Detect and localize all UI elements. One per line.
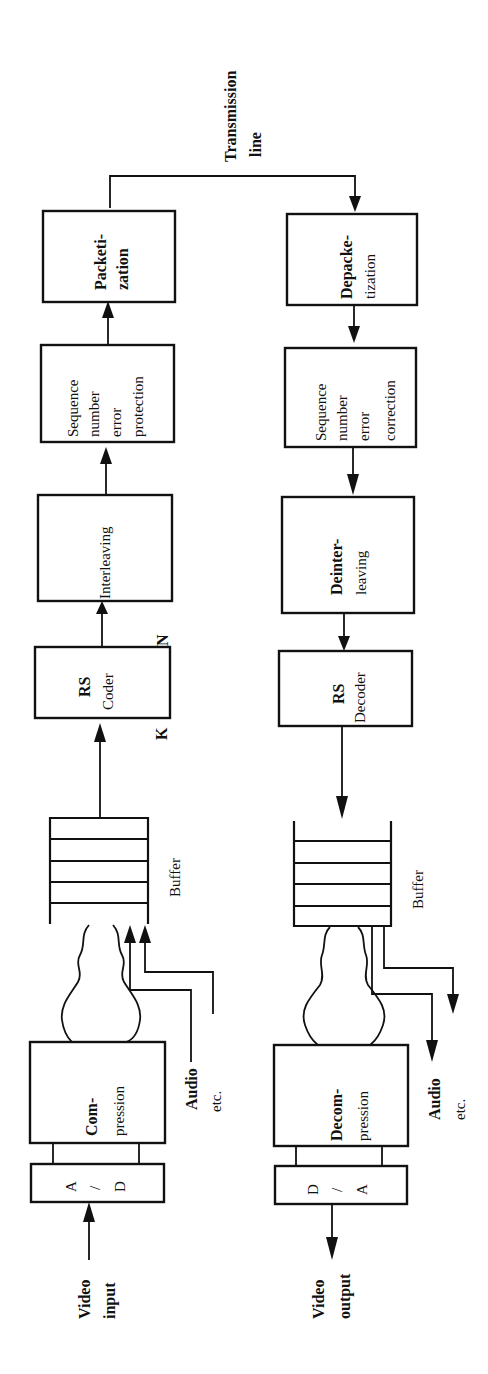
tx-audio-label-2: etc. bbox=[208, 1091, 224, 1112]
transmission-line: Transmission line bbox=[110, 71, 361, 212]
rs-coder-label-2: Coder bbox=[100, 673, 116, 710]
compression-label-2: pression bbox=[111, 1086, 127, 1136]
decompression-block: Decom- pression bbox=[274, 1045, 408, 1146]
interleaving-block: Interleaving bbox=[38, 495, 172, 601]
tx-audio-label-1: Audio bbox=[183, 1068, 200, 1110]
ad-converter-block: A / D bbox=[31, 1164, 164, 1202]
decompression-label-2: pression bbox=[355, 1091, 371, 1141]
rs-decoder-label-2: Decoder bbox=[352, 672, 368, 723]
video-output-label-1: Video bbox=[310, 1280, 327, 1319]
transmission-label-1: Transmission bbox=[222, 71, 239, 162]
transmission-label-2: line bbox=[247, 132, 264, 157]
interleaving-label: Interleaving bbox=[97, 526, 113, 599]
rs-coder-block: RS Coder bbox=[35, 647, 170, 718]
depacketization-block: Depacke- tization bbox=[287, 214, 417, 305]
video-input-label-2: input bbox=[101, 1282, 119, 1319]
packetization-label-1: Packeti- bbox=[92, 234, 109, 290]
compression-label-1: Com- bbox=[83, 1098, 100, 1136]
da-label-top: D bbox=[305, 1184, 321, 1195]
receiver-buffer-label: Buffer bbox=[410, 870, 426, 909]
deinterleaving-label-2: leaving bbox=[353, 550, 369, 595]
rs-decoder-label-1: RS bbox=[330, 683, 347, 704]
rx-audio-label-2: etc. bbox=[452, 1099, 468, 1120]
video-transmission-diagram: Transmission line Packeti- zation Sequen… bbox=[0, 0, 488, 1374]
deinterleaving-label-1: Deinter- bbox=[328, 539, 345, 595]
packetization-label-2: zation bbox=[114, 248, 131, 290]
diagram-canvas: Transmission line Packeti- zation Sequen… bbox=[0, 0, 488, 1374]
rs-decoder-block: RS Decoder bbox=[279, 651, 412, 726]
compression-block: Com- pression bbox=[30, 1042, 165, 1143]
transmitter-buffer-label: Buffer bbox=[167, 858, 183, 897]
receiver-chain: Depacke- tization Sequence number error … bbox=[274, 214, 468, 1319]
decompression-label-1: Decom- bbox=[328, 1089, 345, 1141]
video-output-label-2: output bbox=[336, 1273, 354, 1319]
seq-protect-label-3: error bbox=[108, 408, 124, 437]
packetization-block: Packeti- zation bbox=[43, 211, 175, 302]
k-label: K bbox=[153, 727, 170, 740]
rs-coder-label-1: RS bbox=[76, 676, 93, 697]
rx-audio-label-1: Audio bbox=[426, 1078, 443, 1120]
seq-protect-label-2: number bbox=[86, 391, 102, 437]
da-label-bottom: A bbox=[354, 1184, 370, 1195]
depacketization-label-1: Depacke- bbox=[338, 235, 356, 299]
receiver-buffer: Buffer bbox=[294, 821, 426, 926]
depacketization-label-2: tization bbox=[362, 254, 378, 299]
ad-label-top: A bbox=[63, 1181, 79, 1192]
sequence-number-error-protection-block: Sequence number error protection bbox=[41, 345, 174, 442]
seq-protect-label-4: protection bbox=[130, 376, 146, 437]
seq-correct-label-1: Sequence bbox=[313, 383, 329, 441]
transmitter-chain: Packeti- zation Sequence number error pr… bbox=[30, 211, 224, 1319]
seq-protect-label-1: Sequence bbox=[65, 379, 81, 437]
ad-label-bottom: D bbox=[112, 1181, 128, 1192]
da-converter-block: D / A bbox=[275, 1166, 407, 1204]
seq-correct-label-2: number bbox=[334, 395, 350, 441]
deinterleaving-block: Deinter- leaving bbox=[282, 497, 414, 613]
transmitter-buffer: Buffer bbox=[50, 818, 183, 924]
n-label: N bbox=[154, 634, 171, 646]
sequence-number-error-correction-block: Sequence number error correction bbox=[285, 348, 416, 447]
seq-correct-label-4: correction bbox=[382, 380, 398, 441]
seq-correct-label-3: error bbox=[356, 412, 372, 441]
video-input-label-1: Video bbox=[76, 1280, 93, 1319]
